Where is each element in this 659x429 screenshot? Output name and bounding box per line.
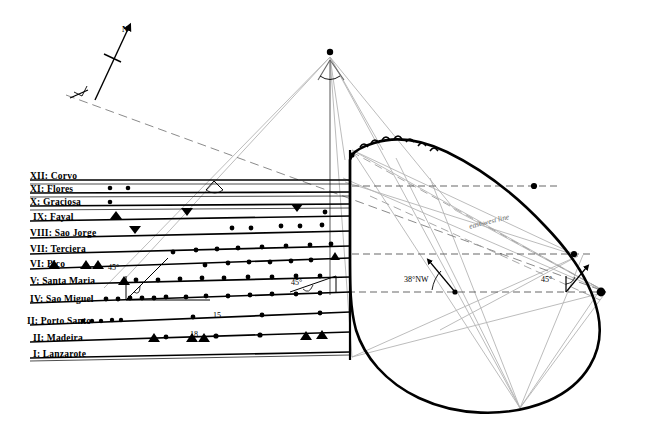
- number-label-15: 15: [213, 311, 221, 320]
- construction-rays-from-b: [345, 150, 578, 357]
- row-label-lanzarote: I: Lanzarote: [33, 349, 86, 359]
- figure-canvas: N 45° 45° 45° 38°NW 15 18 east-west line…: [0, 0, 659, 429]
- row-label-porto-santo: II: Porto Santo: [27, 316, 91, 326]
- angle-label-38-nw: 38°NW: [404, 275, 429, 284]
- row-label-graciosa: X: Graciosa: [30, 197, 81, 207]
- north-label: N: [122, 24, 128, 34]
- angle-label-45-right: 45°: [541, 275, 552, 284]
- row-label-flores: XI: Flores: [30, 184, 73, 194]
- point-construct-s: [206, 181, 223, 193]
- egg-outline-curve: [350, 139, 600, 412]
- dashed-parallels: [348, 186, 606, 292]
- point-marker-m: [452, 289, 457, 294]
- row-label-corvo: XII: Corvo: [30, 171, 77, 181]
- angle-label-45-mid: 45°: [291, 278, 302, 287]
- construction-rays-from-t: [352, 150, 600, 408]
- angle-label-45-left: 45°: [108, 263, 119, 272]
- row-label-madeira: II: Madeira: [33, 333, 83, 343]
- row-label-sao-jorge: VIII: Sao Jorge: [30, 228, 96, 238]
- north-arrow: [70, 29, 128, 100]
- number-label-18: 18: [190, 330, 198, 339]
- long-dashed-azimuth-line: [66, 95, 606, 292]
- angle-arrow-38nw: [430, 262, 455, 292]
- diagram-vector-layer: [0, 0, 659, 429]
- row-label-pico: VI: Pico: [30, 259, 65, 269]
- row-label-fayal: IX: Fayal: [33, 212, 74, 222]
- point-marker-q: [327, 49, 333, 55]
- row-label-santa-maria: V: Santa Maria: [30, 276, 95, 286]
- row-label-sao-miguel: IV: Sao Miguel: [30, 294, 94, 304]
- row-label-terciera: VII: Terciera: [30, 244, 86, 254]
